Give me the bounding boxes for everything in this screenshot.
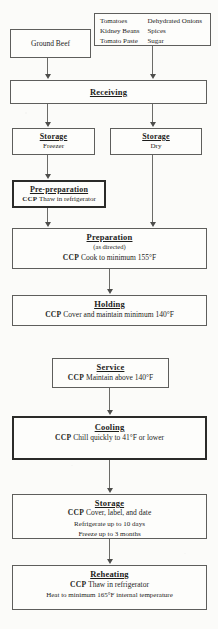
- arrowhead-storage-freezer-to-pre-preparation: [45, 174, 51, 179]
- arrowhead-preparation-to-holding: [107, 289, 113, 294]
- reheating-ccp-tag: CCP: [70, 580, 86, 589]
- ingredient-tomato-paste: Tomato Paste: [100, 37, 139, 47]
- node-storage-dry: Storage Dry: [110, 128, 202, 155]
- node-service: Service CCP Maintain above 140°F: [52, 358, 169, 388]
- arrowhead-storage-dry-to-preparation: [150, 222, 156, 227]
- connector-receiving-to-storage-dry: [152, 104, 153, 123]
- ground-beef-label: Ground Beef: [31, 39, 70, 48]
- node-reheating: Reheating CCP Thaw in refrigerator Heat …: [12, 565, 207, 610]
- holding-ccp-line: CCP Cover and maintain minimum 140°F: [13, 309, 206, 320]
- reheating-line2: Heat to minimum 165°F internal temperatu…: [13, 590, 206, 601]
- storage-cooked-line3: Freeze up to 3 months: [13, 529, 206, 540]
- storage-freezer-detail: Freezer: [13, 141, 94, 151]
- ingredient-spices: Spices: [147, 27, 202, 37]
- node-preparation: Preparation (as directed) CCP Cook to mi…: [12, 228, 207, 269]
- storage-cooked-ccp-line: CCP Cover, label, and date: [13, 508, 206, 519]
- service-ccp-tag: CCP: [68, 373, 84, 382]
- cooling-title: Cooling: [14, 422, 205, 432]
- arrowhead-service-to-cooling: [107, 410, 113, 415]
- preparation-detail: (as directed): [13, 242, 206, 252]
- ingredient-tomatoes: Tomatoes: [100, 17, 139, 27]
- cooling-ccp-tag: CCP: [55, 433, 71, 442]
- ingredient-sugar: Sugar: [147, 37, 202, 47]
- storage-dry-detail: Dry: [111, 141, 201, 151]
- node-pre-preparation: Pre-preparation CCP Thaw in refrigerator: [12, 180, 106, 208]
- service-title: Service: [53, 362, 168, 372]
- connector-pre-preparation-to-preparation: [47, 208, 48, 223]
- pre-preparation-ccp-tag: CCP: [22, 195, 37, 203]
- node-receiving: Receiving: [10, 80, 207, 104]
- preparation-ccp-tag: CCP: [63, 253, 79, 262]
- node-storage-cooked: Storage CCP Cover, label, and date Refri…: [12, 494, 207, 539]
- pre-preparation-title: Pre-preparation: [14, 185, 104, 194]
- node-ground-beef: Ground Beef: [10, 29, 91, 58]
- node-cooling: Cooling CCP Chill quickly to 41°F or low…: [12, 416, 207, 460]
- holding-ccp-text: Cover and maintain minimum 140°F: [63, 310, 174, 319]
- storage-freezer-title: Storage: [13, 132, 94, 141]
- connector-storage-freezer-to-pre-preparation: [47, 155, 48, 175]
- service-ccp-text: Maintain above 140°F: [86, 373, 153, 382]
- process-flow-chart: Ground Beef Tomatoes Dehydrated Onions K…: [0, 0, 218, 629]
- reheating-title: Reheating: [13, 569, 206, 579]
- node-storage-freezer: Storage Freezer: [12, 128, 95, 155]
- ingredients-grid: Tomatoes Dehydrated Onions Kidney Beans …: [95, 14, 210, 46]
- cooling-ccp-line: CCP Chill quickly to 41°F or lower: [14, 432, 205, 444]
- connector-ground-beef-to-receiving: [47, 58, 48, 75]
- arrowhead-storage-cooked-to-reheating: [107, 559, 113, 564]
- node-holding: Holding CCP Cover and maintain minimum 1…: [12, 295, 207, 326]
- arrowhead-ingredients-to-receiving: [150, 74, 156, 79]
- reheating-ccp-text: Thaw in refrigerator: [88, 580, 149, 589]
- connector-storage-dry-to-preparation: [152, 155, 153, 223]
- holding-ccp-tag: CCP: [45, 310, 61, 319]
- receiving-title: Receiving: [90, 87, 127, 97]
- arrowhead-pre-preparation-to-preparation: [45, 222, 51, 227]
- preparation-ccp-text: Cook to minimum 155°F: [81, 253, 156, 262]
- connector-service-to-cooling: [109, 388, 110, 411]
- pre-preparation-ccp-line: CCP Thaw in refrigerator: [14, 194, 104, 204]
- storage-dry-title: Storage: [111, 132, 201, 141]
- connector-storage-cooked-to-reheating: [109, 539, 110, 560]
- connector-cooling-to-storage-cooked: [109, 460, 110, 489]
- arrowhead-receiving-to-storage-freezer: [45, 122, 51, 127]
- node-ingredients: Tomatoes Dehydrated Onions Kidney Beans …: [94, 13, 211, 46]
- storage-cooked-ccp-tag: CCP: [68, 508, 84, 517]
- cooling-ccp-text: Chill quickly to 41°F or lower: [73, 433, 164, 442]
- arrowhead-receiving-to-storage-dry: [150, 122, 156, 127]
- holding-title: Holding: [13, 299, 206, 309]
- storage-cooked-line2: Refrigerate up to 10 days: [13, 519, 206, 530]
- preparation-ccp-line: CCP Cook to minimum 155°F: [13, 252, 206, 263]
- connector-ingredients-to-receiving: [152, 46, 153, 75]
- reheating-ccp-line: CCP Thaw in refrigerator: [13, 579, 206, 590]
- connector-receiving-to-storage-freezer: [47, 104, 48, 123]
- arrowhead-cooling-to-storage-cooked: [107, 488, 113, 493]
- ingredient-kidney-beans: Kidney Beans: [100, 27, 139, 37]
- ingredient-dehydrated-onions: Dehydrated Onions: [147, 17, 202, 27]
- storage-cooked-ccp-text: Cover, label, and date: [86, 508, 151, 517]
- preparation-title: Preparation: [13, 232, 206, 242]
- arrowhead-ground-beef-to-receiving: [45, 74, 51, 79]
- storage-cooked-title: Storage: [13, 498, 206, 508]
- connector-preparation-to-holding: [109, 269, 110, 290]
- pre-preparation-ccp-text: Thaw in refrigerator: [39, 195, 96, 203]
- service-ccp-line: CCP Maintain above 140°F: [53, 372, 168, 383]
